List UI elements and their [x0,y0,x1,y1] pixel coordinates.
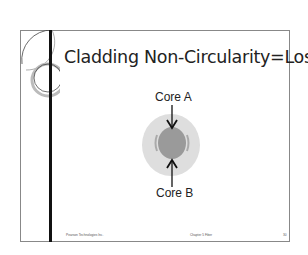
footer-chapter: Chapter 5 Fiber [190,233,212,237]
footer-page-number: 30 [283,233,287,237]
core-b-label: Core B [156,186,193,200]
vertical-accent-bar [49,30,52,242]
core-a-label: Core A [155,90,192,104]
fiber-cross-section-diagram [130,105,210,190]
decorative-circles-icon [20,30,60,110]
footer-company: Pearson Technologies Inc. [66,233,103,237]
slide-title: Cladding Non-Circularity=Loss [64,47,308,67]
